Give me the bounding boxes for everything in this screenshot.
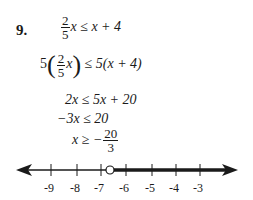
tick-label: -3 <box>193 181 203 196</box>
tick-label: -6 <box>119 181 129 196</box>
step-3: 2x ≤ 5x + 20 <box>65 92 137 108</box>
step-1: 25x ≤ x + 4 <box>60 14 121 41</box>
step-2: 5(25x) ≤ 5(x + 4) <box>40 50 142 80</box>
open-circle-icon <box>106 166 114 174</box>
problem-number: 9. <box>16 22 27 39</box>
tick-label: -9 <box>44 181 54 196</box>
tick-label: -5 <box>145 181 155 196</box>
tick-label: -7 <box>94 181 104 196</box>
tick-label: -4 <box>169 181 179 196</box>
step-4: −3x ≤ 20 <box>57 111 108 127</box>
step-5: x ≥ −203 <box>72 127 119 154</box>
fraction: 25 <box>61 14 70 41</box>
fraction: 203 <box>103 127 118 154</box>
tick-label: -8 <box>70 181 80 196</box>
fraction: 25 <box>57 52 66 79</box>
